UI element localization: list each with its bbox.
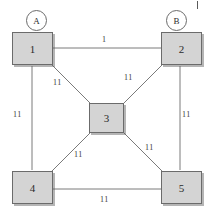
edge-label-1-2: 1	[102, 35, 107, 44]
terminal-circle-b: B	[166, 10, 187, 31]
diagram-canvas: A B 1 2 3 4 5 1 11 11 11 11 11 11 11	[0, 0, 209, 216]
node-4[interactable]: 4	[12, 171, 53, 204]
corner-tick-mark	[197, 1, 198, 9]
edge-3-4	[52, 133, 90, 171]
node-1[interactable]: 1	[12, 32, 53, 65]
node-5[interactable]: 5	[161, 171, 202, 204]
node-5-label: 5	[179, 182, 185, 194]
terminal-label-a: A	[33, 16, 40, 26]
edge-2-3	[124, 65, 162, 103]
edge-label-4-5: 11	[100, 195, 109, 204]
node-3[interactable]: 3	[89, 103, 124, 133]
node-2-label: 2	[179, 43, 185, 55]
edge-label-2-3: 11	[124, 73, 133, 82]
node-1-label: 1	[30, 43, 36, 55]
node-4-label: 4	[30, 182, 36, 194]
edge-label-3-5: 11	[145, 143, 154, 152]
edge-label-2-5: 11	[182, 110, 191, 119]
node-2[interactable]: 2	[161, 32, 202, 65]
terminal-label-b: B	[173, 16, 179, 26]
edge-label-1-4: 11	[13, 110, 22, 119]
terminal-circle-a: A	[26, 10, 47, 31]
edge-label-1-3: 11	[53, 78, 62, 87]
edge-3-5	[124, 133, 162, 171]
node-3-label: 3	[104, 112, 110, 124]
edge-label-3-4: 11	[74, 150, 83, 159]
